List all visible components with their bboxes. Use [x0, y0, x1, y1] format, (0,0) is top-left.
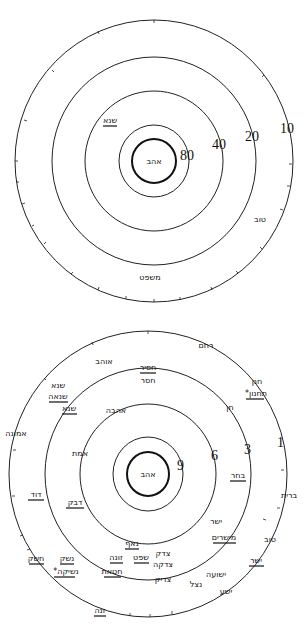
- word-chashak: חשק: [28, 554, 45, 563]
- ring-label-9: 9: [177, 458, 184, 473]
- word-neshikah: נשיקה*: [53, 567, 79, 576]
- word-emet: אמת: [72, 449, 88, 458]
- top-diagram: 80 40 20 10 אהב שנא טוב משפט: [15, 20, 294, 302]
- word-tsedek: צדק: [156, 549, 171, 558]
- word-chasir: חסיר: [140, 363, 157, 372]
- ring-label-80: 80: [180, 148, 194, 163]
- word-sane: שנא: [103, 116, 118, 125]
- word-mishpat: משפט: [139, 273, 160, 282]
- word-brit: ברית: [281, 491, 298, 500]
- word-davak: דבק: [68, 498, 83, 507]
- ring-label-3: 3: [244, 442, 251, 457]
- word-david: דוד: [31, 490, 43, 499]
- word-ohev: אוהב: [95, 357, 112, 366]
- word-yashar-1: ישר: [210, 517, 222, 526]
- diagram-canvas: 80 40 20 10 אהב שנא טוב משפט: [0, 0, 308, 632]
- bottom-diagram: 9 6 3 1 אהב רחם אוהב חסיר חסר חנן תחנון*…: [5, 331, 297, 617]
- word-zanah: זנה: [94, 606, 105, 615]
- word-rachem: רחם: [198, 341, 213, 350]
- word-tov: טוב: [264, 535, 276, 544]
- word-emunah: אמונה: [5, 429, 26, 438]
- ring-label-1: 1: [277, 435, 284, 450]
- ring-label-20: 20: [245, 129, 259, 144]
- word-sane-1: שנא: [51, 381, 66, 390]
- word-chaser: חסר: [141, 376, 156, 385]
- word-ahavah: אהבה: [106, 406, 126, 415]
- word-bachar: בחר: [231, 471, 246, 480]
- word-tsedakah: צדקה: [153, 560, 173, 569]
- word-tsadik: צדיק: [155, 575, 172, 584]
- word-chatat: חטאת: [101, 567, 122, 576]
- word-yesha: ישע: [220, 587, 233, 596]
- word-sinah: שנאה: [48, 392, 68, 401]
- word-natsal: נצל: [190, 580, 203, 589]
- word-naaf: נאף: [125, 539, 139, 548]
- word-shafat: שפט: [133, 553, 149, 562]
- center-word: אהב: [140, 470, 155, 479]
- word-sane-2: שנא: [62, 404, 77, 413]
- word-tachanun: תחנון*: [245, 389, 267, 398]
- center-word: אהב: [146, 157, 161, 166]
- ring-label-40: 40: [212, 137, 226, 152]
- word-chen: חן: [226, 403, 233, 412]
- word-chanan: חנן: [252, 377, 263, 386]
- word-nashak: נשק: [60, 554, 75, 563]
- word-meisharim: מישרים: [212, 533, 237, 542]
- word-tov: טוב: [254, 215, 266, 224]
- ring-label-6: 6: [211, 448, 218, 463]
- ring-label-10: 10: [280, 121, 294, 136]
- word-yashar-2: ישר: [250, 556, 262, 565]
- word-yeshuah: ישועה: [206, 570, 226, 579]
- word-zonah: זונה: [109, 553, 123, 562]
